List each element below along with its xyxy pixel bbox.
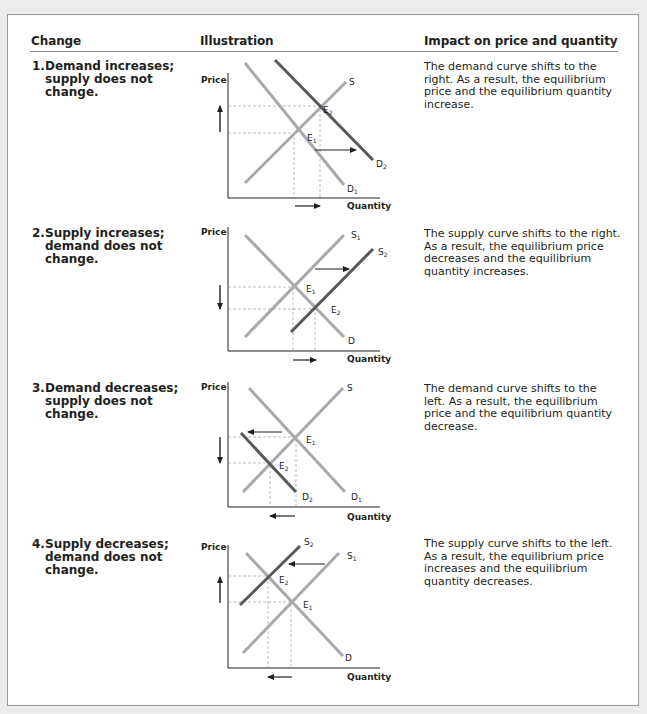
chart-supply-decrease: Price Quantity S2 S1 D E2 E1 <box>201 537 391 682</box>
x-axis-label: Quantity <box>347 354 391 364</box>
demand-curve <box>246 553 343 656</box>
label-d2: D2 <box>302 492 313 503</box>
chart-supply-increase: Price Quantity S1 S2 D E1 E2 <box>201 227 391 364</box>
label-e2: E2 <box>279 461 289 472</box>
label-s: S <box>349 77 355 87</box>
supply-curve-s2 <box>291 249 373 332</box>
chart-demand-decrease: Price Quantity S D1 D2 E1 E2 <box>201 382 391 522</box>
x-axis-label: Quantity <box>347 672 391 682</box>
y-axis-label: Price <box>201 227 227 237</box>
label-d: D <box>348 336 355 346</box>
demand-curve-d2 <box>241 433 296 492</box>
y-axis-label: Price <box>201 382 227 392</box>
x-axis-label: Quantity <box>347 201 391 211</box>
label-e2: E2 <box>323 105 333 116</box>
label-s: S <box>347 383 353 393</box>
label-s1: S1 <box>347 551 357 562</box>
label-s1: S1 <box>351 230 361 241</box>
label-e1: E1 <box>306 435 316 446</box>
label-d: D <box>345 653 352 663</box>
supply-curve <box>243 388 343 492</box>
label-s2: S2 <box>378 247 388 258</box>
y-axis-label: Price <box>201 75 227 85</box>
demand-curve-d1 <box>249 388 345 492</box>
x-axis-label: Quantity <box>347 512 391 522</box>
label-d1: D1 <box>347 184 358 195</box>
label-s2: S2 <box>304 537 314 548</box>
illustrations: Price Quantity S D1 D2 E1 E2 Price Quant… <box>0 0 647 714</box>
label-d1: D1 <box>351 492 362 503</box>
y-axis-label: Price <box>201 542 227 552</box>
label-e1: E1 <box>303 600 313 611</box>
label-e1: E1 <box>306 284 316 295</box>
label-e2: E2 <box>331 305 341 316</box>
label-e2: E2 <box>279 575 289 586</box>
chart-demand-increase: Price Quantity S D1 D2 E1 E2 <box>201 60 391 211</box>
label-d2: D2 <box>376 159 387 170</box>
label-e1: E1 <box>307 133 317 144</box>
